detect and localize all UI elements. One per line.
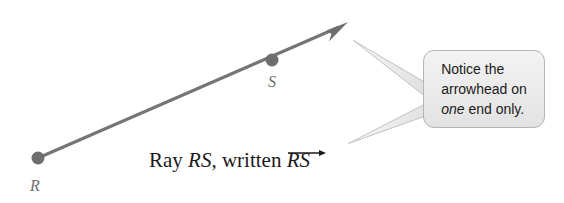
callout-line-3-rest: end only. (465, 101, 525, 117)
point-label-R: R (30, 178, 40, 194)
point-dot-R (32, 152, 45, 165)
caption-point-names: RS (188, 148, 211, 172)
ray-line (38, 28, 338, 159)
callout-line-1: Notice the (441, 61, 504, 77)
callout-line-3-emphasis: one (441, 101, 464, 117)
caption-vector-letters: RS (287, 148, 310, 172)
point-dot-S (266, 54, 279, 67)
callout-text: Notice the arrowhead on one end only. (432, 59, 536, 120)
point-label-S: S (268, 74, 276, 90)
callout-pointer-upper (354, 41, 433, 99)
ray-arrowhead-icon (327, 22, 349, 42)
figure-caption: Ray RS, written RS (149, 148, 310, 172)
callout-bubble: Notice the arrowhead on one end only. (423, 50, 545, 128)
ray-diagram-figure: R S Ray RS, written RS Notice the arrowh… (0, 0, 564, 203)
caption-vector-notation: RS (287, 148, 310, 172)
caption-prefix: Ray (149, 148, 188, 172)
callout-pointer-lower (349, 102, 433, 144)
caption-middle: , written (211, 148, 286, 172)
callout-line-2: arrowhead on (441, 81, 527, 97)
